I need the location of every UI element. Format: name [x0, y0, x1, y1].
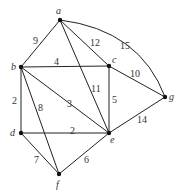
edge-weight-a-g: 15	[120, 40, 130, 51]
edge-weight-b-d: 2	[12, 95, 17, 106]
edge-a-e	[60, 20, 109, 133]
edge-b-e	[21, 67, 109, 133]
edge-weight-a-e: 11	[91, 83, 101, 94]
edge-weight-b-e: 3	[67, 98, 72, 109]
edge-weight-e-g: 14	[137, 114, 147, 125]
edge-weight-b-f: 8	[38, 102, 43, 113]
node-label-c: c	[112, 54, 117, 65]
edge-d-f	[21, 133, 59, 174]
node-g	[163, 95, 167, 99]
node-label-b: b	[11, 61, 16, 72]
edge-weight-a-b: 9	[33, 35, 38, 46]
graph-labels: 9121511432851027614abcdefg	[10, 5, 174, 190]
node-b	[19, 65, 23, 69]
node-label-g: g	[169, 91, 174, 102]
edge-weight-c-g: 10	[130, 68, 140, 79]
node-d	[19, 131, 23, 135]
edge-b-f	[21, 67, 59, 174]
edge-weight-c-e: 5	[112, 94, 117, 105]
node-label-d: d	[10, 127, 16, 138]
node-f	[57, 172, 61, 176]
edge-weight-a-c: 12	[90, 37, 100, 48]
node-c	[107, 64, 111, 68]
edge-a-c	[60, 20, 109, 66]
node-a	[58, 18, 62, 22]
edge-weight-f-e: 6	[84, 154, 89, 165]
edge-weight-d-f: 7	[34, 154, 39, 165]
node-label-f: f	[56, 179, 60, 190]
edge-b-c	[21, 66, 109, 67]
edge-weight-b-c: 4	[54, 56, 59, 67]
weighted-graph-diagram: 9121511432851027614abcdefg	[0, 0, 183, 195]
edge-weight-d-e: 2	[70, 125, 75, 136]
node-label-e: e	[110, 134, 115, 145]
node-label-a: a	[56, 5, 61, 16]
